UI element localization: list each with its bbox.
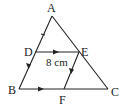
label-c: C xyxy=(111,85,119,99)
parallel-arrow-de xyxy=(53,50,59,55)
tick-mark-ad xyxy=(41,34,45,35)
label-e: E xyxy=(81,45,88,59)
label-f: F xyxy=(59,93,66,107)
parallel-arrow-bc xyxy=(38,87,44,92)
label-d: D xyxy=(24,45,33,59)
label-a: A xyxy=(47,1,56,15)
triangle-diagram: A D E B C F 8 cm xyxy=(0,0,124,111)
label-b: B xyxy=(8,83,16,97)
parallel-arrow-ef xyxy=(69,68,74,74)
measurement-de: 8 cm xyxy=(46,56,68,68)
